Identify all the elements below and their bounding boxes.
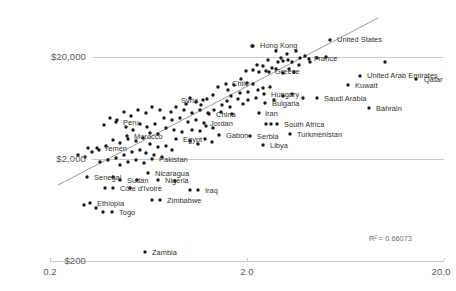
data-point[interactable]	[126, 160, 129, 163]
data-point[interactable]	[198, 129, 201, 132]
data-point-labeled[interactable]	[110, 210, 113, 213]
data-point[interactable]	[203, 137, 206, 140]
data-point-labeled[interactable]	[146, 171, 149, 174]
data-point[interactable]	[153, 122, 156, 125]
data-point[interactable]	[254, 96, 257, 99]
data-point[interactable]	[266, 58, 269, 61]
data-point[interactable]	[301, 96, 304, 99]
data-point[interactable]	[246, 90, 249, 93]
data-point[interactable]	[226, 88, 229, 91]
data-point-labeled[interactable]	[257, 111, 260, 114]
data-point[interactable]	[144, 151, 147, 154]
data-point-labeled[interactable]	[261, 143, 264, 146]
data-point[interactable]	[211, 93, 214, 96]
data-point[interactable]	[205, 97, 208, 100]
data-point[interactable]	[172, 128, 175, 131]
data-point[interactable]	[308, 60, 311, 63]
data-point[interactable]	[276, 60, 279, 63]
data-point-labeled[interactable]	[143, 250, 146, 253]
data-point[interactable]	[268, 85, 271, 88]
data-point[interactable]	[246, 98, 249, 101]
data-point[interactable]	[170, 148, 173, 151]
data-point[interactable]	[290, 60, 293, 63]
data-point[interactable]	[251, 82, 254, 85]
data-point[interactable]	[145, 125, 148, 128]
data-point[interactable]	[142, 161, 145, 164]
data-point[interactable]	[180, 130, 183, 133]
data-point-labeled[interactable]	[248, 134, 251, 137]
data-point[interactable]	[122, 153, 125, 156]
data-point-labeled[interactable]	[201, 98, 204, 101]
data-point[interactable]	[204, 124, 207, 127]
data-point[interactable]	[261, 86, 264, 89]
data-point[interactable]	[210, 140, 213, 143]
data-point-labeled[interactable]	[111, 186, 114, 189]
data-point-labeled[interactable]	[262, 92, 265, 95]
data-point[interactable]	[164, 144, 167, 147]
data-point[interactable]	[114, 156, 117, 159]
data-point[interactable]	[303, 54, 306, 57]
data-point[interactable]	[111, 138, 114, 141]
data-point[interactable]	[144, 111, 147, 114]
data-point[interactable]	[164, 126, 167, 129]
data-point[interactable]	[241, 102, 244, 105]
data-point[interactable]	[148, 142, 151, 145]
data-point[interactable]	[134, 158, 137, 161]
data-point-labeled[interactable]	[288, 132, 291, 135]
data-point[interactable]	[182, 108, 185, 111]
data-point-labeled[interactable]	[85, 175, 88, 178]
data-point[interactable]	[236, 97, 239, 100]
data-point-labeled[interactable]	[114, 120, 117, 123]
data-point[interactable]	[244, 69, 247, 72]
data-point[interactable]	[169, 110, 172, 113]
data-point-labeled[interactable]	[224, 82, 227, 85]
data-point-labeled[interactable]	[207, 112, 210, 115]
data-point[interactable]	[264, 122, 267, 125]
data-point[interactable]	[190, 128, 193, 131]
data-point[interactable]	[118, 163, 121, 166]
data-point-labeled[interactable]	[358, 74, 361, 77]
data-point-labeled[interactable]	[346, 83, 349, 86]
data-point-labeled[interactable]	[88, 201, 91, 204]
data-point[interactable]	[186, 120, 189, 123]
data-point[interactable]	[101, 210, 104, 213]
data-point-labeled[interactable]	[367, 106, 370, 109]
data-point-labeled[interactable]	[263, 101, 266, 104]
data-point-labeled[interactable]	[217, 133, 220, 136]
data-point-labeled[interactable]	[202, 121, 205, 124]
data-point[interactable]	[256, 88, 259, 91]
data-point[interactable]	[162, 116, 165, 119]
data-point-labeled[interactable]	[307, 57, 310, 60]
data-point[interactable]	[255, 63, 258, 66]
data-point[interactable]	[178, 116, 181, 119]
data-point[interactable]	[238, 91, 241, 94]
data-point-labeled[interactable]	[156, 178, 159, 181]
data-point[interactable]	[264, 69, 267, 72]
data-point[interactable]	[108, 116, 111, 119]
data-point[interactable]	[156, 145, 159, 148]
data-point[interactable]	[136, 108, 139, 111]
data-point[interactable]	[257, 70, 260, 73]
data-point[interactable]	[194, 118, 197, 121]
data-point[interactable]	[270, 66, 273, 69]
data-point[interactable]	[229, 94, 232, 97]
data-point[interactable]	[216, 85, 219, 88]
data-point[interactable]	[188, 188, 191, 191]
data-point[interactable]	[298, 56, 301, 59]
data-point[interactable]	[102, 123, 105, 126]
data-point[interactable]	[82, 203, 85, 206]
data-point[interactable]	[285, 52, 288, 55]
data-point[interactable]	[86, 146, 89, 149]
data-point[interactable]	[383, 60, 386, 63]
data-point[interactable]	[199, 103, 202, 106]
data-point[interactable]	[174, 105, 177, 108]
data-point[interactable]	[251, 68, 254, 71]
data-point[interactable]	[228, 105, 231, 108]
data-point[interactable]	[279, 56, 282, 59]
data-point-labeled[interactable]	[174, 137, 177, 140]
data-point[interactable]	[152, 153, 155, 156]
data-point[interactable]	[261, 64, 264, 67]
data-point[interactable]	[126, 137, 129, 140]
data-point-labeled[interactable]	[267, 70, 270, 73]
data-point-labeled[interactable]	[275, 122, 278, 125]
